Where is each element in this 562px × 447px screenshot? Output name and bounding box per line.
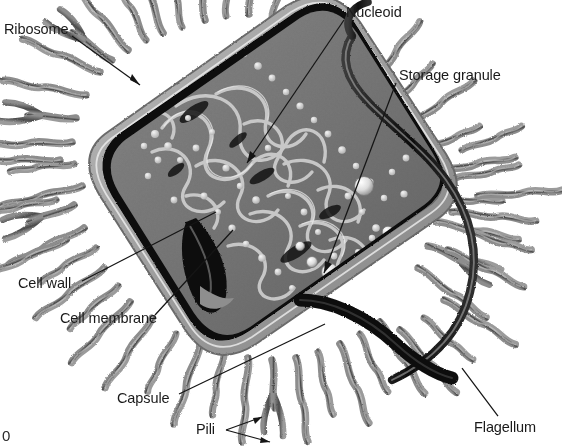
- label-capsule: Capsule: [117, 391, 170, 406]
- label-cell-wall: Cell wall: [18, 276, 71, 291]
- label-flagellum: Flagellum: [474, 420, 536, 435]
- corner-page-mark: 0: [2, 428, 10, 443]
- label-cell-membrane: Cell membrane: [60, 311, 157, 326]
- label-pili: Pili: [196, 422, 215, 437]
- bacterial-cell-diagram: Ribosome Nucleoid Storage granule Cell w…: [0, 0, 562, 447]
- label-nucleoid: Nucleoid: [346, 5, 402, 20]
- label-storage-granule: Storage granule: [399, 68, 501, 83]
- label-ribosome: Ribosome: [4, 22, 68, 37]
